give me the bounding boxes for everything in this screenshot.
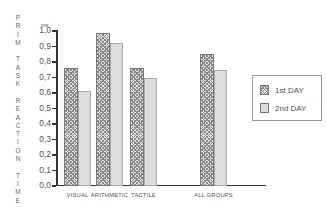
y-axis-label-letter: M — [14, 39, 22, 47]
y-axis-label-letter: A — [14, 114, 22, 122]
legend-swatch-day2 — [260, 103, 269, 113]
y-axis-label-letter: R — [14, 97, 22, 105]
y-tick-label: 0,0 — [29, 180, 51, 190]
y-tick-mark — [52, 170, 56, 171]
y-tick-label: 0,8 — [29, 56, 51, 66]
y-axis-label-letter: I — [14, 31, 22, 39]
y-axis-label-letter: M — [14, 188, 22, 196]
legend: 1st DAY 2nd DAY — [252, 75, 322, 121]
y-tick-label: 0,9 — [29, 41, 51, 51]
y-tick-mark — [52, 46, 56, 47]
y-axis-label-letter: A — [14, 64, 22, 72]
y-axis-label-letter: T — [14, 55, 22, 63]
bar-tactile-day1 — [130, 68, 144, 186]
y-tick-mark — [52, 123, 56, 124]
y-axis-label-letter: I — [14, 180, 22, 188]
y-axis-label-letter: O — [14, 147, 22, 155]
y-tick-label: 0,3 — [29, 134, 51, 144]
y-tick-label: 0,6 — [29, 87, 51, 97]
legend-label-day2: 2nd DAY — [275, 104, 306, 113]
y-axis — [56, 30, 58, 186]
legend-label-day1: 1st DAY — [275, 86, 304, 95]
y-axis-label-letter: R — [14, 22, 22, 30]
y-tick-label: 1,0 — [29, 25, 51, 35]
y-axis-label-letter: E — [14, 105, 22, 113]
x-category-label: ALL GROUPS — [189, 192, 239, 198]
y-tick-mark — [52, 154, 56, 155]
y-tick-mark — [52, 77, 56, 78]
y-tick-label: 0,7 — [29, 72, 51, 82]
y-tick-label: 0,4 — [29, 118, 51, 128]
y-axis-label-letter: I — [14, 138, 22, 146]
y-axis-label-letter — [14, 89, 22, 97]
y-tick-mark — [52, 30, 56, 31]
y-axis-label-letter: C — [14, 122, 22, 130]
legend-item-day1: 1st DAY — [260, 85, 304, 95]
y-axis-label-letter: T — [14, 172, 22, 180]
y-axis-label-letter: T — [14, 130, 22, 138]
bar-arithmetic-day2 — [110, 43, 124, 186]
y-axis-label-letter: N — [14, 155, 22, 163]
bar-tactile-day2 — [144, 78, 158, 187]
y-tick-label: 0,5 — [29, 103, 51, 113]
x-category-label: TACTILE — [119, 192, 169, 198]
bar-arithmetic-day1 — [96, 33, 110, 186]
y-tick-mark — [52, 92, 56, 93]
y-tick-label: 0,2 — [29, 149, 51, 159]
y-axis-label: PRIMTASKREACTIONTIME — [14, 14, 22, 205]
bar-all-groups-day2 — [214, 70, 228, 186]
y-axis-label-letter: S — [14, 72, 22, 80]
y-tick-mark — [52, 185, 56, 186]
legend-swatch-day1 — [260, 85, 269, 95]
bar-all-groups-day1 — [200, 54, 214, 186]
y-tick-mark — [52, 108, 56, 109]
y-tick-label: 0,1 — [29, 165, 51, 175]
y-axis-label-letter — [14, 47, 22, 55]
bar-visual-day2 — [78, 91, 92, 186]
y-axis-label-letter — [14, 163, 22, 171]
bar-visual-day1 — [64, 68, 78, 186]
y-tick-mark — [52, 139, 56, 140]
y-tick-mark — [52, 61, 56, 62]
y-axis-label-letter: P — [14, 14, 22, 22]
y-axis-label-letter: E — [14, 197, 22, 205]
y-axis-label-letter: K — [14, 80, 22, 88]
legend-item-day2: 2nd DAY — [260, 103, 306, 113]
